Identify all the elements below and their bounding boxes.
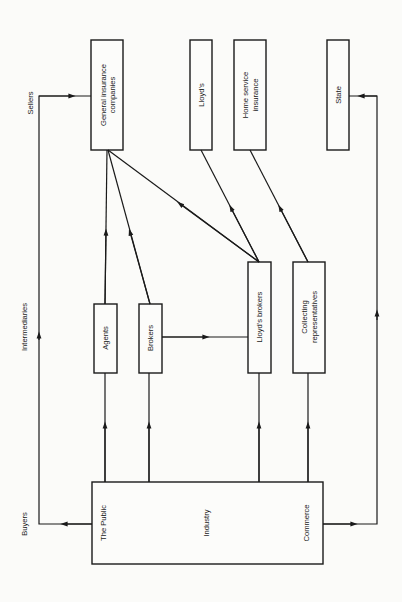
box-buyers: The Public Industry Commerce: [92, 482, 323, 564]
buyer-the-public: The Public: [99, 505, 108, 541]
buyer-industry: Industry: [202, 509, 211, 536]
svg-text:State: State: [334, 86, 343, 104]
buyer-commerce: Commerce: [302, 504, 311, 541]
box-brokers: Brokers: [139, 304, 162, 373]
box-home-service-insurance: Home service insurance: [234, 40, 266, 150]
box-agents: Agents: [94, 304, 117, 373]
svg-text:Brokers: Brokers: [146, 325, 155, 351]
box-general-insurance-companies: General insurance companies: [91, 40, 123, 150]
diagram-canvas: Sellers Intermediaries Buyers General in…: [0, 0, 402, 602]
svg-text:insurance: insurance: [251, 79, 260, 112]
svg-text:Lloyd's: Lloyd's: [197, 83, 206, 107]
svg-text:Agents: Agents: [101, 326, 110, 350]
box-state: State: [327, 40, 349, 150]
box-lloyds: Lloyd's: [190, 40, 212, 150]
svg-text:Lloyd's brokers: Lloyd's brokers: [255, 291, 264, 342]
box-lloyds-brokers: Lloyd's brokers: [248, 262, 271, 373]
box-collecting-representatives: Collecting representatives: [293, 262, 325, 373]
flow-lines: [39, 96, 377, 524]
svg-text:Collecting: Collecting: [300, 300, 309, 333]
level-label-buyers: Buyers: [20, 512, 29, 536]
svg-text:Home service: Home service: [241, 72, 250, 118]
svg-text:representatives: representatives: [310, 291, 319, 343]
svg-text:General insurance: General insurance: [99, 64, 108, 126]
insurance-market-diagram: Sellers Intermediaries Buyers General in…: [0, 0, 402, 602]
level-label-sellers: Sellers: [26, 91, 35, 114]
level-label-intermediaries: Intermediaries: [20, 303, 29, 351]
svg-text:companies: companies: [108, 76, 117, 113]
